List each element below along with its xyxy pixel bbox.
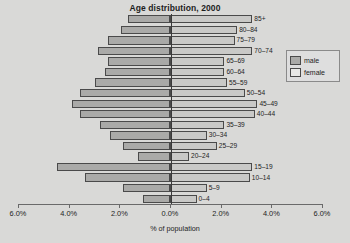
bar-male [80,110,170,118]
population-pyramid-chart: Age distribution, 2000 0–45–910–1415–192… [0,0,350,243]
x-axis-tick-label: 4.0% [263,209,280,218]
bar-female [170,152,189,160]
bar-female [170,26,237,34]
bar-male [128,15,170,23]
bar-female [170,110,255,118]
x-axis-tick-label: 2.0% [212,209,229,218]
bar-male [80,89,170,97]
age-group-label: 65–69 [226,58,244,65]
legend-swatch-male [290,56,301,65]
bar-male [123,142,170,150]
bar-male [121,26,170,34]
age-group-label: 85+ [254,16,265,23]
age-group-label: 60–64 [226,69,244,76]
x-axis-tick-label: 6.0% [10,209,27,218]
chart-title: Age distribution, 2000 [0,3,350,13]
x-axis-tick-label: 4.0% [60,209,77,218]
x-axis-tick-label: 0.0% [162,209,179,218]
bar-female [170,163,252,171]
legend-item-male: male [290,54,336,66]
bar-male [57,163,170,171]
age-group-label: 75–79 [237,37,255,44]
bar-female [170,15,252,23]
legend-label: female [304,69,325,76]
bar-male [72,100,170,108]
legend-item-female: female [290,66,336,78]
age-group-label: 45–49 [259,100,277,107]
legend-swatch-female [290,68,301,77]
chart-legend: malefemale [286,50,340,82]
bar-male [123,184,170,192]
x-axis-title: % of population [0,224,350,233]
bar-female [170,131,207,139]
x-axis-tick [119,204,120,208]
x-axis-tick [18,204,19,208]
age-group-label: 50–54 [247,90,265,97]
bar-male [100,121,170,129]
bar-female [170,89,245,97]
bar-male [143,195,170,203]
bar-female [170,68,224,76]
x-axis-tick [322,204,323,208]
x-axis-tick [221,204,222,208]
bar-female [170,184,207,192]
x-axis-tick-label: 2.0% [111,209,128,218]
bar-male [138,152,170,160]
x-axis-tick [170,204,171,208]
age-group-label: 70–74 [254,48,272,55]
zero-axis-line [171,14,172,204]
bar-female [170,121,224,129]
bar-male [105,68,170,76]
age-group-label: 0–4 [199,195,210,202]
bar-female [170,142,217,150]
bar-female [170,195,197,203]
bar-male [110,131,170,139]
age-group-label: 25–29 [219,143,237,150]
age-group-label: 35–39 [226,122,244,129]
age-group-label: 5–9 [209,185,220,192]
age-group-label: 55–59 [229,79,247,86]
age-group-label: 40–44 [257,111,275,118]
age-group-label: 15–19 [254,164,272,171]
bar-male [108,57,170,65]
bar-female [170,47,252,55]
bar-female [170,173,250,181]
bar-male [108,36,170,44]
bar-female [170,78,227,86]
x-axis-tick [69,204,70,208]
age-group-label: 20–24 [191,153,209,160]
bar-female [170,36,235,44]
age-group-label: 10–14 [252,174,270,181]
x-axis-tick [271,204,272,208]
age-group-label: 80–84 [239,27,257,34]
bar-male [85,173,170,181]
bar-female [170,57,224,65]
bar-male [95,78,170,86]
bar-female [170,100,257,108]
x-axis-tick-label: 6.0% [314,209,331,218]
legend-label: male [304,57,319,64]
age-group-label: 30–34 [209,132,227,139]
bar-male [98,47,170,55]
